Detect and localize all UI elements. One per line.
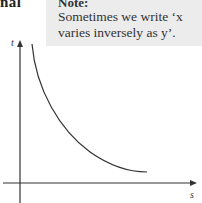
- s-axis-arrow-icon: [190, 180, 197, 186]
- t-axis-arrow-icon: [17, 40, 23, 47]
- inverse-curve: [32, 44, 147, 172]
- inverse-variation-graph: t s: [0, 0, 202, 203]
- s-axis-label: s: [190, 189, 194, 200]
- t-axis-label: t: [11, 37, 14, 48]
